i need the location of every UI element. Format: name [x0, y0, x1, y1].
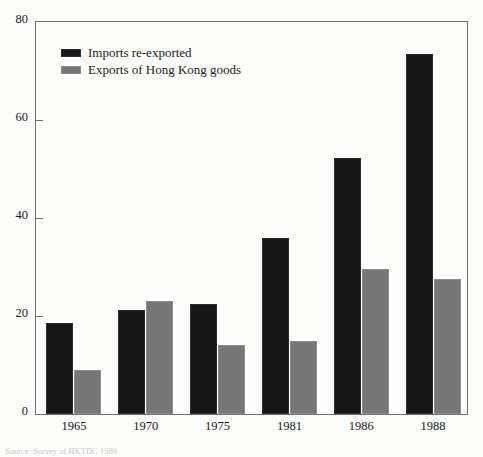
bar: [362, 269, 389, 414]
x-axis-tick-label: 1965: [61, 420, 86, 433]
legend-item: Imports re-exported: [61, 44, 241, 61]
legend-swatch-imports-re-exported: [61, 49, 81, 57]
bar: [190, 304, 217, 414]
y-axis-tick-label: 60: [16, 111, 29, 124]
bar-group: [395, 22, 467, 414]
bar: [406, 54, 433, 414]
bar-group: [180, 22, 252, 414]
legend-label-exports-of-hong-kong-goods: Exports of Hong Kong goods: [88, 63, 241, 76]
chart-legend: Imports re-exported Exports of Hong Kong…: [61, 44, 241, 78]
bar-group: [36, 22, 108, 414]
bar: [262, 238, 289, 414]
x-axis: 196519701975198119861988: [36, 420, 467, 440]
bar: [334, 158, 361, 414]
bar: [434, 279, 461, 414]
bar-chart-figure: 020406080 196519701975198119861988 Impor…: [0, 0, 483, 457]
bar: [290, 341, 317, 414]
bar: [118, 310, 145, 414]
legend-item: Exports of Hong Kong goods: [61, 61, 241, 78]
source-note: Source: Survey of HKTDC 1989: [5, 447, 117, 456]
y-axis-tick-label: 20: [16, 307, 29, 320]
bar: [146, 301, 173, 414]
bar: [46, 323, 73, 414]
y-axis-tick-label: 0: [22, 405, 28, 418]
legend-swatch-exports-of-hong-kong-goods: [61, 66, 81, 74]
bars-layer: [36, 22, 467, 414]
legend-label-imports-re-exported: Imports re-exported: [88, 46, 192, 59]
bar-group: [108, 22, 180, 414]
x-axis-tick-label: 1988: [421, 420, 446, 433]
x-axis-tick-label: 1970: [133, 420, 158, 433]
x-axis-tick-label: 1981: [277, 420, 302, 433]
bar-group: [252, 22, 324, 414]
x-axis-tick-label: 1975: [205, 420, 230, 433]
bar: [218, 345, 245, 414]
y-axis-tick-label: 80: [16, 13, 29, 26]
bar: [74, 370, 101, 414]
x-axis-tick-label: 1986: [349, 420, 374, 433]
bar-group: [323, 22, 395, 414]
y-axis-tick-label: 40: [16, 209, 29, 222]
